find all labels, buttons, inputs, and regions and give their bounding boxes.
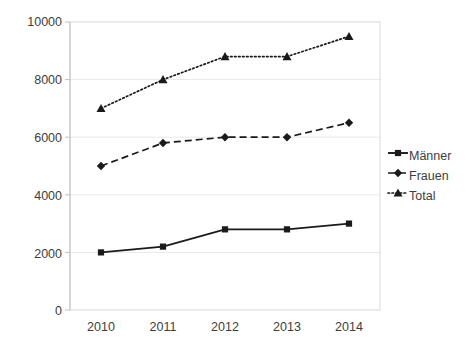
y-tick-label-4000: 4000 — [34, 189, 62, 203]
legend-label-manner: Männer — [409, 149, 451, 163]
x-tick-label-2013: 2013 — [273, 320, 301, 334]
chart-canvas: 10000 8000 6000 4000 2000 0 2010 2011 20… — [0, 0, 469, 352]
x-tick-label-2014: 2014 — [335, 320, 363, 334]
legend-marker-triangle-icon — [388, 189, 408, 197]
legend-item-manner[interactable]: Männer — [388, 149, 451, 163]
legend-item-frauen[interactable]: Frauen — [388, 169, 449, 183]
x-tick-label-2012: 2012 — [211, 320, 239, 334]
legend-item-total[interactable]: Total — [388, 189, 435, 204]
y-axis-ticks — [65, 22, 70, 310]
data-point — [284, 226, 290, 232]
chart-legend: Männer Frauen Total — [388, 149, 451, 203]
x-tick-label-2010: 2010 — [87, 320, 115, 334]
legend-marker-square-icon — [388, 150, 408, 156]
y-tick-label-8000: 8000 — [34, 73, 62, 87]
y-tick-label-2000: 2000 — [34, 247, 62, 261]
data-point — [160, 244, 166, 250]
data-point — [222, 226, 228, 232]
y-tick-label-0: 0 — [55, 304, 62, 318]
line-chart: 10000 8000 6000 4000 2000 0 2010 2011 20… — [0, 0, 469, 352]
data-point — [346, 221, 352, 227]
plot-background — [70, 22, 380, 310]
data-point — [98, 249, 104, 255]
y-tick-label-10000: 10000 — [27, 15, 62, 29]
legend-label-total: Total — [409, 189, 435, 203]
x-tick-label-2011: 2011 — [150, 320, 177, 334]
legend-label-frauen: Frauen — [409, 169, 449, 183]
y-tick-label-6000: 6000 — [34, 131, 62, 145]
legend-marker-diamond-icon — [388, 169, 408, 177]
